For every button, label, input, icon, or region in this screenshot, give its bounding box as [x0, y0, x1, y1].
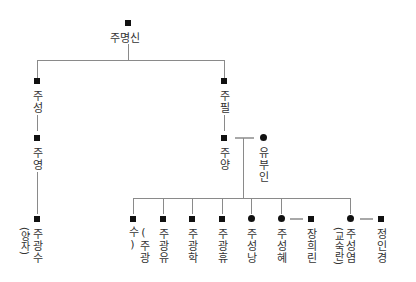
- child-drop-7: [350, 198, 351, 214]
- adopted-name: 주광수: [31, 228, 42, 264]
- child-3-marker-male: [189, 216, 195, 222]
- child-drop-1: [133, 198, 134, 214]
- child-drop-3: [192, 198, 193, 214]
- janghuirin-marker-male: [308, 216, 314, 222]
- child-7-note: (교숙란): [333, 227, 343, 265]
- child-drop-5: [251, 198, 252, 214]
- gen2-left-drop: [37, 60, 38, 78]
- child-2-name: 주광유: [157, 228, 168, 264]
- child-6-marker-female: [278, 215, 285, 222]
- juyang-name: 주양: [218, 147, 229, 171]
- child-5-marker-female: [248, 215, 255, 222]
- root-name: 주명신: [110, 29, 140, 45]
- jeonginkyung-marker-male: [378, 216, 384, 222]
- juyang-marker-male: [221, 135, 227, 141]
- adopted-note: (양자): [19, 227, 29, 255]
- children-horizontal-line: [133, 198, 351, 199]
- jusung-to-juyoung-line: [37, 115, 38, 131]
- child-1-marker-male: [130, 216, 136, 222]
- adopted-marker-male: [34, 216, 40, 222]
- child-3-name: 주광학: [186, 228, 197, 264]
- child-7-marriage-line: [360, 218, 373, 220]
- gen2-right-drop: [224, 60, 225, 78]
- root-connector: [128, 44, 129, 60]
- jusung-name: 주성: [31, 90, 42, 114]
- child-4-marker-male: [219, 216, 225, 222]
- child-drop-4: [222, 198, 223, 214]
- child-1-name: (주광수): [127, 226, 149, 282]
- juyang-marriage-line: [235, 137, 254, 139]
- child-drop-6: [281, 198, 282, 214]
- juyoung-to-adopted-line: [37, 172, 38, 214]
- jupil-marker-male: [221, 78, 227, 84]
- juyoung-marker-male: [34, 135, 40, 141]
- child-4-name: 주광휴: [216, 228, 227, 264]
- child-6-marriage-line: [290, 218, 303, 220]
- jusung-marker-male: [34, 78, 40, 84]
- child-5-name: 주성낭: [245, 228, 256, 264]
- jeonginkyung-name: 정인경: [375, 228, 386, 264]
- gen2-horizontal-line: [37, 60, 225, 61]
- child-6-name: 주성혜: [275, 228, 286, 264]
- child-drop-2: [163, 198, 164, 214]
- juyoung-name: 주영: [31, 147, 42, 171]
- jupil-name: 주필: [218, 90, 229, 114]
- yubuin-marker-female: [260, 134, 267, 141]
- jupil-to-juyang-line: [224, 115, 225, 131]
- root-marker-male: [125, 20, 131, 26]
- child-7-marker-female: [347, 215, 354, 222]
- child-7-name: 주성염: [344, 228, 355, 264]
- yubuin-name: 유부인: [257, 147, 268, 183]
- children-descent-line: [243, 138, 244, 198]
- janghuirin-name: 장희린: [305, 228, 316, 264]
- child-2-marker-male: [160, 216, 166, 222]
